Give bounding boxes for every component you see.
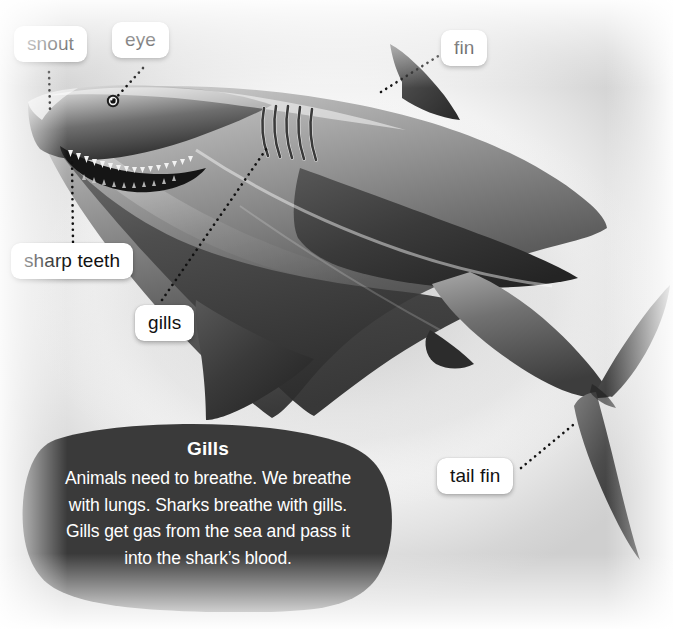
shark-anatomy-diagram: snout eye fin sharp teeth gills tail fin… <box>0 0 673 629</box>
label-chip-fin[interactable]: fin <box>441 30 487 66</box>
label-text-eye: eye <box>125 29 156 50</box>
info-box-gills: Gills Animals need to breathe. We breath… <box>22 422 394 612</box>
label-chip-sharp-teeth[interactable]: sharp teeth <box>11 243 133 279</box>
label-text-snout: snout <box>27 33 74 54</box>
label-chip-tail-fin[interactable]: tail fin <box>437 458 513 494</box>
label-text-sharp-teeth: sharp teeth <box>24 250 120 271</box>
info-box-line-3: Gills get gas from the sea and pass it <box>44 518 372 545</box>
label-chip-eye[interactable]: eye <box>112 22 169 58</box>
info-box-title: Gills <box>44 438 372 460</box>
info-box-line-4: into the shark’s blood. <box>44 545 372 572</box>
label-chip-gills[interactable]: gills <box>135 305 194 341</box>
label-text-fin: fin <box>454 37 474 58</box>
label-text-gills: gills <box>148 312 181 333</box>
info-box-line-1: Animals need to breathe. We breathe <box>44 465 372 492</box>
label-text-tail-fin: tail fin <box>450 465 500 486</box>
info-box-line-2: with lungs. Sharks breathe with gills. <box>44 492 372 519</box>
label-chip-snout[interactable]: snout <box>14 26 87 62</box>
